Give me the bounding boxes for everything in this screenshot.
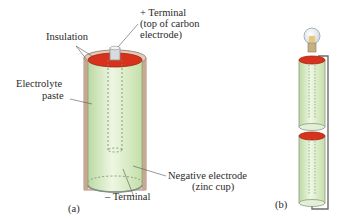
label-electrolyte-1: Electrolyte xyxy=(16,78,62,89)
dry-cell-a xyxy=(70,24,166,197)
label-minus-terminal: – Terminal xyxy=(105,191,150,202)
label-plus-terminal-2: (top of carbon xyxy=(140,18,199,29)
label-plus-terminal-3: electrode) xyxy=(140,29,182,40)
label-negative-electrode-2: (zinc cup) xyxy=(192,181,234,192)
series-cells-b xyxy=(299,28,328,209)
caption-a: (a) xyxy=(68,203,80,214)
label-insulation: Insulation xyxy=(46,31,88,42)
label-plus-terminal-1: + Terminal xyxy=(140,7,186,18)
label-electrolyte-2: paste xyxy=(42,90,64,101)
label-negative-electrode-1: Negative electrode xyxy=(168,170,247,181)
caption-b: (b) xyxy=(275,199,287,210)
